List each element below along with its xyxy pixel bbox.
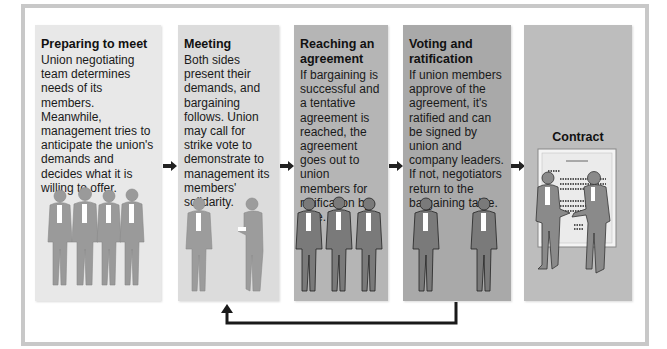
feedback-loop-arrow-icon [0,0,667,349]
